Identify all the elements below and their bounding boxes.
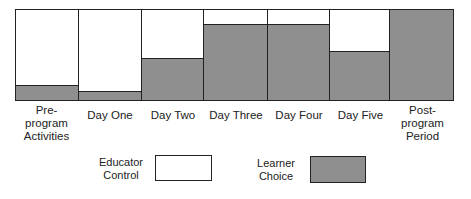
x-label-line2: Activities	[15, 130, 78, 143]
bar-segment-learner-choice	[79, 91, 142, 100]
x-label-line1: Day Three	[204, 109, 268, 122]
legend-label-learner-choice: Learner Choice	[252, 157, 300, 183]
x-label-line1: Day Two	[142, 109, 204, 122]
stacked-bar-chart	[15, 9, 454, 101]
legend-swatch-learner-choice	[310, 156, 366, 183]
x-axis-label: Day Five	[330, 104, 391, 143]
x-label-line1: Day One	[78, 109, 142, 122]
x-axis-label: Day Four	[268, 104, 330, 143]
bar-segment-learner-choice	[204, 24, 267, 101]
x-axis-labels: Pre-programActivitiesDay OneDay TwoDay T…	[15, 104, 454, 143]
x-axis-label: Post-programPeriod	[391, 104, 454, 143]
bar-segment-learner-choice	[390, 10, 453, 100]
bar-column	[142, 10, 204, 100]
bar-column	[390, 10, 453, 100]
bar-column	[79, 10, 143, 100]
bar-segment-learner-choice	[16, 85, 78, 100]
bar-column	[16, 10, 79, 100]
x-label-line1: Post-program	[391, 104, 454, 130]
bar-segment-learner-choice	[330, 51, 390, 100]
legend-label-educator-control: Educator Control	[96, 156, 146, 182]
bar-column	[330, 10, 391, 100]
bar-segment-learner-choice	[268, 24, 329, 101]
x-label-line1: Day Four	[268, 109, 330, 122]
x-axis-label: Day Two	[142, 104, 204, 143]
legend-educator-line2: Control	[96, 169, 146, 182]
legend-swatch-educator-control	[155, 155, 212, 181]
x-axis-label: Pre-programActivities	[15, 104, 78, 143]
legend-educator-line1: Educator	[96, 156, 146, 169]
bar-column	[204, 10, 268, 100]
x-label-line1: Day Five	[330, 109, 391, 122]
bar-segment-learner-choice	[142, 58, 203, 100]
x-label-line1: Pre-program	[15, 104, 78, 130]
x-axis-label: Day One	[78, 104, 142, 143]
x-label-line2: Period	[391, 130, 454, 143]
legend-learner-line1: Learner	[252, 157, 300, 170]
bar-column	[268, 10, 330, 100]
x-axis-label: Day Three	[204, 104, 268, 143]
legend-learner-line2: Choice	[252, 170, 300, 183]
